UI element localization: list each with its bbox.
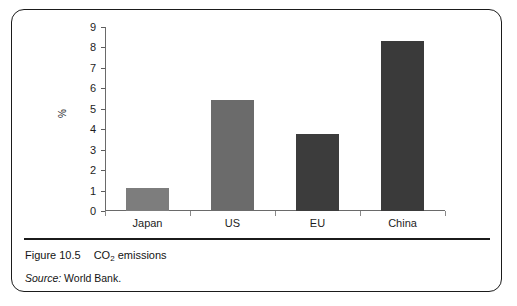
x-axis-tick-mark <box>190 211 191 216</box>
caption-divider <box>24 238 490 240</box>
source-word: Source: <box>25 272 61 284</box>
figure-caption: Figure 10.5CO2 emissions <box>25 248 167 264</box>
bar-eu <box>296 134 339 211</box>
x-axis-tick-mark <box>360 211 361 216</box>
x-axis-tick-mark <box>445 211 446 216</box>
y-axis-title: % <box>57 104 68 124</box>
bars-layer <box>105 27 445 211</box>
y-axis-tick-label: 1 <box>74 185 96 196</box>
x-axis-tick-label: US <box>225 216 240 230</box>
y-axis-tick-label: 6 <box>74 83 96 94</box>
y-axis-tick-label: 2 <box>74 165 96 176</box>
y-axis-tick-label: 5 <box>74 103 96 114</box>
x-axis-tick-label: EU <box>310 216 325 230</box>
x-axis-tick-label: Japan <box>133 216 163 230</box>
source-value: World Bank. <box>64 272 121 284</box>
x-axis-tick-mark <box>275 211 276 216</box>
x-axis-tick-label: China <box>388 216 417 230</box>
figure-title-prefix: CO <box>94 249 111 261</box>
figure-source: Source: World Bank. <box>25 271 121 285</box>
y-axis-tick-label: 7 <box>74 62 96 73</box>
figure-title-suffix: emissions <box>115 249 167 261</box>
y-axis-tick-label: 0 <box>74 206 96 217</box>
bar-chart-plot: % 0123456789 JapanUSEUChina <box>12 10 503 230</box>
y-axis-tick-label: 8 <box>74 42 96 53</box>
y-axis-tick-label: 3 <box>74 144 96 155</box>
figure-title-subscript: 2 <box>110 254 114 263</box>
bar-us <box>211 100 254 211</box>
x-axis-tick-mark <box>105 211 106 216</box>
y-axis-tick-labels: 0123456789 <box>74 27 96 210</box>
y-axis-tick-label: 9 <box>74 22 96 33</box>
y-axis-tick-label: 4 <box>74 124 96 135</box>
x-axis-tick-labels: JapanUSEUChina <box>105 216 445 236</box>
figure-number: Figure 10.5 <box>25 249 81 261</box>
bar-japan <box>126 188 169 212</box>
figure-card: % 0123456789 JapanUSEUChina Figure 10.5C… <box>11 9 502 292</box>
bar-china <box>381 41 424 211</box>
